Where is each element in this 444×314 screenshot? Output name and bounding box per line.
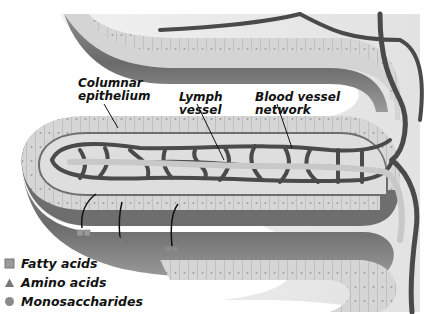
circle-icon [4,296,15,307]
triangle-icon [4,277,15,288]
legend-item-amino-acids: Amino acids [4,273,143,292]
label-lymph-vessel: Lymph vessel [179,91,223,117]
legend-item-monosaccharides: Monosaccharides [4,292,143,311]
label-columnar-epithelium: Columnar epithelium [78,77,151,103]
legend-item-fatty-acids: Fatty acids [4,254,143,273]
label-blood-vessel-network: Blood vessel network [255,91,340,117]
lower-villus [160,260,397,312]
legend: Fatty acids Amino acids Monosaccharides [4,254,143,311]
square-icon [4,258,15,269]
